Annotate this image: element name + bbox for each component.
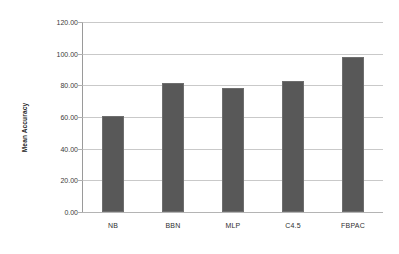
x-axis-tick-labels: NBBBNMLPC4.5FBPAC xyxy=(83,222,383,242)
x-axis-tick-label: C4.5 xyxy=(285,222,301,229)
bar-chart-figure: Mean Accuracy 0.0020.0040.0060.0080.0010… xyxy=(0,0,399,254)
y-axis-tick-mark xyxy=(77,22,83,23)
y-axis-tick-mark xyxy=(77,85,83,86)
bar-mlp xyxy=(222,88,244,212)
y-axis-tick-label: 20.00 xyxy=(30,177,78,184)
plot-area xyxy=(83,22,383,212)
x-axis-tick-label: FBPAC xyxy=(341,222,365,229)
bar-slot xyxy=(83,22,143,212)
y-axis-tick-mark xyxy=(77,180,83,181)
bar-c4-5 xyxy=(282,81,304,212)
bar-slot xyxy=(143,22,203,212)
y-axis-tick-label: 80.00 xyxy=(30,82,78,89)
y-axis-tick-label: 120.00 xyxy=(30,19,78,26)
y-axis-tick-label: 60.00 xyxy=(30,114,78,121)
y-axis-tick-mark xyxy=(77,117,83,118)
x-axis-tick-label: MLP xyxy=(226,222,241,229)
bar-slot xyxy=(323,22,383,212)
y-axis-tick-label: 0.00 xyxy=(30,209,78,216)
y-axis-title-text: Mean Accuracy xyxy=(22,102,29,151)
x-axis-tick-label: BBN xyxy=(166,222,181,229)
bar-nb xyxy=(102,116,124,212)
bar-slot xyxy=(203,22,263,212)
y-axis-tick-mark xyxy=(77,212,83,213)
y-axis-tick-label: 100.00 xyxy=(30,50,78,57)
y-axis-tick-labels: 0.0020.0040.0060.0080.00100.00120.00 xyxy=(30,0,78,254)
bar-bbn xyxy=(162,83,184,212)
gridline xyxy=(83,212,383,213)
bar-fbpac xyxy=(342,57,364,212)
bar-slot xyxy=(263,22,323,212)
y-axis-tick-mark xyxy=(77,149,83,150)
y-axis-tick-label: 40.00 xyxy=(30,145,78,152)
bars-group xyxy=(83,22,383,212)
x-axis-tick-label: NB xyxy=(108,222,118,229)
y-axis-tick-mark xyxy=(77,54,83,55)
